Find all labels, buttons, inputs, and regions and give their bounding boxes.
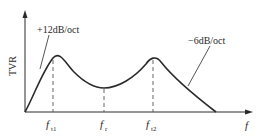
x-axis xyxy=(25,110,253,115)
dashed-guides xyxy=(53,60,153,112)
slope-left-label: +12dB/oct xyxy=(37,24,80,35)
tick-ft2: f t2 xyxy=(146,118,157,133)
tick-ft2-sub: t2 xyxy=(151,125,157,133)
slope-right-label: −6dB/oct xyxy=(188,35,226,46)
tvr-curve xyxy=(25,56,216,112)
tick-ft1-sub: t1 xyxy=(51,125,57,133)
leader-line-right xyxy=(188,46,210,86)
x-axis-arrow-icon xyxy=(245,110,253,115)
y-axis xyxy=(23,10,28,112)
x-axis-label: f xyxy=(245,119,250,131)
tick-ft1: f t1 xyxy=(46,118,57,133)
tvr-frequency-diagram: TVR +12dB/oct −6dB/oct f f t1 f r f t2 xyxy=(0,0,268,136)
y-axis-label: TVR xyxy=(7,56,18,76)
leader-line-left xyxy=(40,35,49,69)
tick-fr: f r xyxy=(100,118,108,133)
tick-fr-sub: r xyxy=(105,125,108,133)
y-axis-arrow-icon xyxy=(23,10,28,18)
